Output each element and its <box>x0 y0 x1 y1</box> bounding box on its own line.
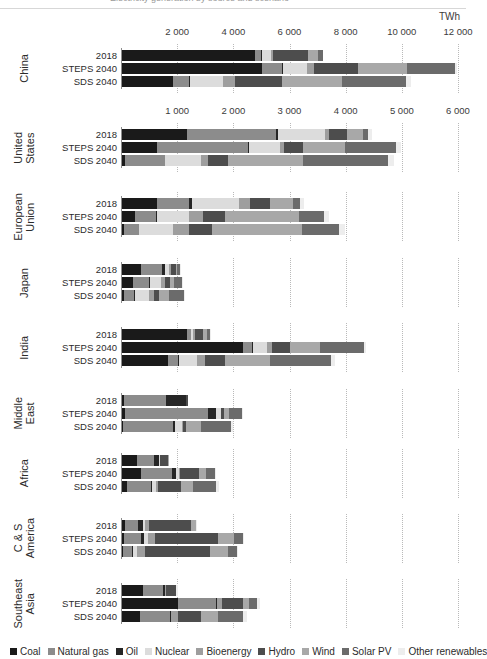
bar-row[interactable]: SDS 2040 <box>0 546 466 557</box>
bar-row[interactable]: 2018 <box>0 129 466 140</box>
bar-row[interactable]: STEPS 2040 <box>0 408 466 419</box>
bar-segment-nuclear <box>179 355 198 366</box>
stacked-bar[interactable] <box>122 264 181 275</box>
stacked-bar[interactable] <box>122 76 411 87</box>
bar-row[interactable]: SDS 2040 <box>0 155 466 166</box>
stacked-bar[interactable] <box>122 342 366 353</box>
bar-segment-hydro <box>273 50 308 61</box>
bar-segment-bioenergy <box>137 546 145 557</box>
bar-segment-wind <box>308 50 318 61</box>
bar-row[interactable]: 2018 <box>0 585 466 596</box>
bar-row[interactable]: 2018 <box>0 520 466 531</box>
legend-swatch <box>196 648 203 655</box>
bar-row[interactable]: STEPS 2040 <box>0 277 466 288</box>
bar-segment-solar-pv <box>293 198 300 209</box>
bar-row[interactable]: SDS 2040 <box>0 76 466 87</box>
bar-segment-solar-pv <box>249 598 257 609</box>
bar-segment-wind <box>358 63 407 74</box>
bar-group-united-states: United States2018STEPS 2040SDS 2040 <box>0 127 466 168</box>
stacked-bar[interactable] <box>122 585 178 596</box>
stacked-bar[interactable] <box>122 50 323 61</box>
bar-group-c-s-america: C & S America2018STEPS 2040SDS 2040 <box>0 518 466 559</box>
stacked-bar[interactable] <box>122 355 335 366</box>
bar-row[interactable]: STEPS 2040 <box>0 598 466 609</box>
bar-row[interactable]: 2018 <box>0 264 466 275</box>
stacked-bar[interactable] <box>122 546 238 557</box>
legend-item-bioenergy[interactable]: Bioenergy <box>196 646 251 657</box>
scenario-label: STEPS 2040 <box>0 598 117 609</box>
bar-segment-wind <box>347 129 363 140</box>
bar-segment-coal <box>122 264 141 275</box>
bar-segment-bioenergy <box>148 533 155 544</box>
stacked-bar[interactable] <box>122 142 401 153</box>
stacked-bar[interactable] <box>122 455 169 466</box>
bar-row[interactable]: SDS 2040 <box>0 421 466 432</box>
legend-item-natural-gas[interactable]: Natural gas <box>48 646 109 657</box>
axis-tick-label: 8 000 <box>334 26 358 37</box>
bar-row[interactable]: STEPS 2040 <box>0 468 466 479</box>
stacked-bar[interactable] <box>122 598 260 609</box>
bar-segment-natural-gas <box>173 76 189 87</box>
stacked-bar[interactable] <box>122 211 329 222</box>
bar-segment-coal <box>122 142 157 153</box>
stacked-bar[interactable] <box>122 421 233 432</box>
scenario-label: STEPS 2040 <box>0 277 117 288</box>
stacked-bar[interactable] <box>122 329 211 340</box>
bar-segment-wind <box>290 342 320 353</box>
legend-item-coal[interactable]: Coal <box>10 646 41 657</box>
legend-item-hydro[interactable]: Hydro <box>258 646 295 657</box>
stacked-bar[interactable] <box>122 129 372 140</box>
stacked-bar[interactable] <box>122 481 219 492</box>
bar-segment-other-renewables <box>339 224 345 235</box>
bar-segment-nuclear <box>165 155 200 166</box>
stacked-bar[interactable] <box>122 408 243 419</box>
bar-row[interactable]: STEPS 2040 <box>0 342 466 353</box>
legend-item-nuclear[interactable]: Nuclear <box>145 646 189 657</box>
bar-segment-coal <box>122 277 133 288</box>
bar-row[interactable]: SDS 2040 <box>0 224 466 235</box>
bar-row[interactable]: STEPS 2040 <box>0 211 466 222</box>
stacked-bar[interactable] <box>122 533 244 544</box>
bar-row[interactable]: STEPS 2040 <box>0 533 466 544</box>
legend-item-solar-pv[interactable]: Solar PV <box>342 646 391 657</box>
bar-segment-coal <box>122 598 178 609</box>
stacked-bar[interactable] <box>122 198 305 209</box>
stacked-bar[interactable] <box>122 395 188 406</box>
scenario-label: SDS 2040 <box>0 611 117 622</box>
legend-item-wind[interactable]: Wind <box>302 646 335 657</box>
legend-item-oil[interactable]: Oil <box>116 646 138 657</box>
bar-row[interactable]: 2018 <box>0 395 466 406</box>
bar-row[interactable]: 2018 <box>0 455 466 466</box>
stacked-bar[interactable] <box>122 611 247 622</box>
stacked-bar[interactable] <box>122 155 394 166</box>
bar-row[interactable]: SDS 2040 <box>0 481 466 492</box>
bar-row[interactable]: SDS 2040 <box>0 355 466 366</box>
stacked-bar[interactable] <box>122 277 183 288</box>
bar-row[interactable]: 2018 <box>0 50 466 61</box>
scenario-label: 2018 <box>0 455 117 466</box>
stacked-bar[interactable] <box>122 63 457 74</box>
bar-segment-solar-pv <box>228 546 236 557</box>
scenario-label: 2018 <box>0 329 117 340</box>
axis-tick-label: 5 000 <box>390 105 414 116</box>
bar-row[interactable]: 2018 <box>0 198 466 209</box>
bar-segment-hydro <box>329 129 347 140</box>
bar-group-africa: Africa2018STEPS 2040SDS 2040 <box>0 453 466 494</box>
stacked-bar[interactable] <box>122 520 197 531</box>
stacked-bar[interactable] <box>122 224 345 235</box>
bar-segment-other-renewables <box>184 290 185 301</box>
bar-row[interactable]: STEPS 2040 <box>0 63 466 74</box>
bar-row[interactable]: STEPS 2040 <box>0 142 466 153</box>
bar-row[interactable]: SDS 2040 <box>0 611 466 622</box>
bar-segment-nuclear <box>150 277 161 288</box>
scenario-label: SDS 2040 <box>0 421 117 432</box>
stacked-bar[interactable] <box>122 290 185 301</box>
bar-segment-solar-pv <box>345 142 396 153</box>
scenario-label: SDS 2040 <box>0 355 117 366</box>
bar-row[interactable]: 2018 <box>0 329 466 340</box>
bar-segment-hydro <box>189 224 211 235</box>
bar-row[interactable]: SDS 2040 <box>0 290 466 301</box>
stacked-bar[interactable] <box>122 468 216 479</box>
bar-segment-coal <box>122 129 187 140</box>
legend-item-other-renewables[interactable]: Other renewables <box>398 646 487 657</box>
